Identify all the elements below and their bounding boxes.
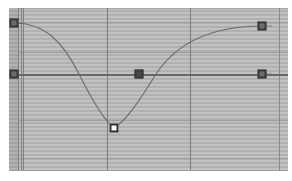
control-point-mid-center[interactable]	[135, 70, 144, 79]
control-point-top-right[interactable]	[258, 22, 267, 31]
screen-root	[0, 0, 292, 181]
tick-mark	[267, 74, 272, 75]
envelope-curve-editor[interactable]	[9, 8, 288, 171]
panel-bottom-border	[9, 170, 288, 171]
tick-mark	[267, 26, 272, 27]
control-point-left-center[interactable]	[10, 70, 19, 79]
control-point-valley[interactable]	[110, 124, 119, 133]
control-point-top-left[interactable]	[10, 19, 19, 28]
control-point-right-center[interactable]	[258, 70, 267, 79]
envelope-curve[interactable]	[9, 8, 288, 171]
